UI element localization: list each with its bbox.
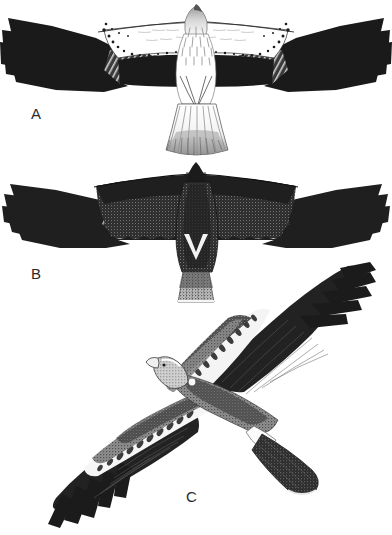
- figure-b-left-wing: [2, 173, 206, 248]
- illustration-plate: A B C: [0, 0, 392, 535]
- figure-label-c: C: [186, 489, 197, 504]
- figure-c-upperside: [40, 262, 392, 535]
- figure-label-a: A: [31, 106, 42, 121]
- figure-a-drawing: [0, 0, 392, 165]
- figure-c-upper-wing: [166, 262, 376, 394]
- figure-a-pale-morph: [0, 0, 392, 165]
- figure-c-drawing: [40, 262, 392, 535]
- figure-c-lower-wing: [48, 384, 224, 528]
- figure-label-b: B: [31, 266, 42, 281]
